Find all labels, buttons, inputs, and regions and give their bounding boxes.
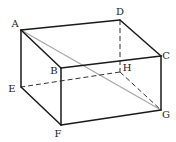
vertex-label-g: G <box>162 109 170 120</box>
vertex-label-e: E <box>8 83 15 94</box>
edge-dc <box>120 20 161 56</box>
vertex-label-h: H <box>123 62 132 73</box>
diagonal-ag <box>21 30 161 110</box>
vertex-label-d: D <box>116 6 124 17</box>
hidden-edge-he <box>21 72 120 87</box>
edge-fg <box>61 110 161 125</box>
diagonal-group <box>21 30 161 110</box>
solid-edges-group <box>21 20 161 125</box>
vertex-label-b: B <box>50 65 57 76</box>
vertex-label-c: C <box>162 50 170 61</box>
edge-ad <box>21 20 120 30</box>
vertex-label-a: A <box>10 18 19 29</box>
prism-diagram: A B C D E F G H <box>0 0 176 142</box>
edge-ef <box>21 87 61 125</box>
vertex-labels-group: A B C D E F G H <box>8 6 170 139</box>
vertex-label-f: F <box>55 128 62 139</box>
hidden-edge-hg <box>120 72 161 110</box>
